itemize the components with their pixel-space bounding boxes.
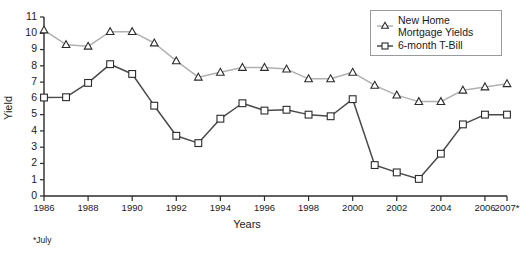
y-tick-label: 2 [31, 156, 37, 168]
y-tick-label: 9 [31, 42, 37, 54]
y-tick-label: 3 [31, 140, 37, 152]
data-point-square [129, 71, 136, 78]
data-point-triangle [40, 26, 48, 33]
data-point-square [482, 111, 489, 118]
data-point-square [393, 169, 400, 176]
data-point-square [107, 61, 114, 68]
x-tick-label: 1992 [166, 202, 187, 213]
x-tick-label: 1996 [254, 202, 275, 213]
data-point-triangle [503, 80, 511, 87]
data-point-square [327, 113, 334, 120]
data-point-square [85, 80, 92, 87]
legend-label-mortgage-line1: New Home [398, 14, 450, 26]
t-bill-markers [41, 61, 511, 183]
data-point-square [173, 132, 180, 139]
y-tick-label: 11 [26, 10, 37, 22]
x-tick-label: 2000 [342, 202, 363, 213]
series-6-month-t-bill [41, 61, 511, 183]
x-tick-label: 2007* [495, 202, 520, 213]
footnote-july: *July [33, 235, 52, 245]
x-tick-label: 2004 [430, 202, 451, 213]
data-point-square [437, 150, 444, 157]
data-point-square [261, 107, 268, 114]
legend-label-mortgage-line2: Mortgage Yields [398, 26, 473, 38]
data-point-square [349, 96, 356, 103]
x-tick-label: 2002 [386, 202, 407, 213]
y-axis-tick-labels: 01234567891011 [25, 10, 37, 201]
t-bill-line [44, 64, 507, 179]
data-point-square [195, 140, 202, 147]
data-point-square [41, 94, 48, 101]
data-point-square [371, 162, 378, 169]
y-axis-title: Yield [2, 96, 14, 120]
chart-container: 01234567891011 1986198819901992199419961… [0, 0, 523, 254]
x-tick-label: 1990 [122, 202, 143, 213]
y-tick-label: 10 [25, 26, 37, 38]
data-point-square [217, 115, 224, 122]
x-tick-label: 1986 [33, 202, 54, 213]
legend-label-tbill: 6-month T-Bill [398, 39, 463, 51]
y-tick-label: 4 [31, 124, 37, 136]
x-tick-label: 1998 [298, 202, 319, 213]
data-point-square [415, 176, 422, 183]
data-point-square [239, 100, 246, 107]
yield-line-chart: 01234567891011 1986198819901992199419961… [0, 0, 523, 254]
x-tick-label: 1994 [210, 202, 231, 213]
x-axis-tick-labels: 1986198819901992199419961998200020022004… [33, 202, 519, 213]
x-axis-ticks [44, 196, 507, 201]
data-point-triangle [349, 68, 357, 75]
data-point-square [63, 94, 70, 101]
y-tick-label: 8 [31, 59, 37, 71]
y-tick-label: 5 [31, 107, 37, 119]
data-point-square [504, 111, 511, 118]
data-point-square [305, 111, 312, 118]
data-point-square [460, 121, 467, 128]
y-tick-label: 1 [31, 173, 37, 185]
x-tick-label: 1988 [78, 202, 99, 213]
data-point-square [151, 102, 158, 109]
x-axis-title: Years [233, 218, 261, 230]
data-point-triangle [371, 81, 379, 88]
square-icon [382, 43, 388, 49]
data-point-square [283, 106, 290, 113]
data-point-triangle [62, 41, 70, 48]
y-tick-label: 6 [31, 91, 37, 103]
x-tick-label: 2006 [474, 202, 495, 213]
y-tick-label: 7 [31, 75, 37, 87]
y-tick-label: 0 [31, 189, 37, 201]
chart-legend: New Home Mortgage Yields 6-month T-Bill [371, 11, 502, 56]
